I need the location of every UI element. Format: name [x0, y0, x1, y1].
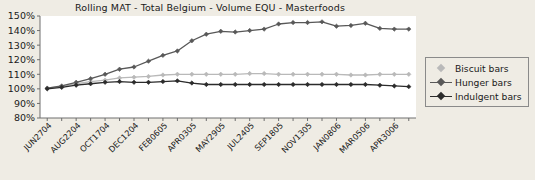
legend-item-label: Biscuit bars — [452, 63, 509, 74]
x-tick-label: APR0305 — [165, 120, 198, 153]
legend-item[interactable]: Indulgent bars — [430, 89, 522, 103]
legend-item[interactable]: Biscuit bars — [430, 61, 522, 75]
x-tick-label: MAR0506 — [337, 120, 372, 155]
x-tick-label: DEC1204 — [106, 120, 140, 154]
chart-legend: Biscuit barsHunger barsIndulgent bars — [425, 57, 529, 107]
legend-marker-icon — [430, 90, 452, 102]
y-tick-label: 140% — [8, 25, 35, 36]
legend-diamond-icon — [437, 92, 445, 100]
y-tick-label: 130% — [8, 40, 35, 51]
legend-marker-icon — [430, 76, 452, 88]
chart-container: Rolling MAT - Total Belgium - Volume EQU… — [0, 0, 535, 180]
x-tick-label: JUL2405 — [224, 120, 256, 152]
y-tick-label: 90% — [14, 98, 35, 109]
x-tick-label: APR3006 — [367, 120, 400, 153]
x-tick-label: FEB0605 — [137, 120, 170, 153]
y-tick-label: 100% — [8, 83, 35, 94]
x-tick-label: AUG2204 — [48, 120, 82, 154]
y-tick-label: 110% — [8, 69, 35, 80]
legend-item-label: Indulgent bars — [452, 91, 522, 102]
x-tick-label: MAY2905 — [193, 120, 227, 154]
x-tick-label: NOV1305 — [279, 120, 314, 155]
y-tick-label: 80% — [14, 112, 35, 123]
legend-marker-icon — [430, 62, 452, 74]
x-tick-label: OCT1704 — [78, 120, 112, 154]
legend-item[interactable]: Hunger bars — [430, 75, 522, 89]
legend-diamond-icon — [437, 78, 445, 86]
legend-item-label: Hunger bars — [452, 77, 512, 88]
y-tick-label: 120% — [8, 54, 35, 65]
legend-diamond-icon — [437, 64, 445, 72]
y-tick-label: 150% — [8, 10, 35, 21]
